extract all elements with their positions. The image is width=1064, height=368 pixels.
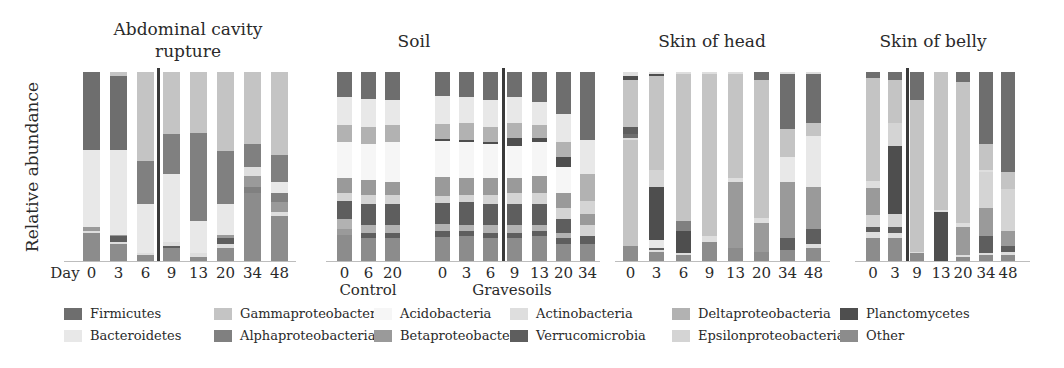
bar-day-13 xyxy=(728,72,743,261)
bar-segment-deltaproteobacteria xyxy=(361,127,376,144)
legend-item-betaproteobacteria: Betaproteobacteria xyxy=(374,328,528,343)
bar-segment-verrucomicrobia xyxy=(385,204,400,225)
bar-segment-betaproteobacteria xyxy=(337,178,352,193)
bar-segment-betaproteobacteria xyxy=(244,176,261,187)
bar-day-3 xyxy=(888,72,902,261)
bar-segment-firmicutes xyxy=(1001,72,1015,172)
bar-segment-verrucomicrobia xyxy=(507,204,522,225)
bar-segment-other xyxy=(580,244,595,261)
legend-swatch-icon xyxy=(510,308,528,320)
bar-segment-verrucomicrobia xyxy=(435,203,450,224)
bar-segment-deltaproteobacteria xyxy=(337,219,352,228)
legend-item-planctomycetes: Planctomycetes xyxy=(840,306,970,321)
bar-segment-bacteroidetes xyxy=(271,182,288,193)
bar-segment-verrucomicrobia xyxy=(532,204,547,225)
bar-segment-firmicutes xyxy=(110,76,127,150)
bar-segment-other xyxy=(163,248,180,261)
event-separator-line xyxy=(502,68,505,261)
bar-segment-deltaproteobacteria xyxy=(483,225,498,233)
x-axis-baseline xyxy=(855,261,1030,262)
bar-segment-gammaproteobacteria xyxy=(623,80,638,127)
legend-item-other: Other xyxy=(840,328,904,343)
bar-day-6 xyxy=(137,72,154,261)
bar-segment-other xyxy=(910,253,924,261)
legend-swatch-icon xyxy=(374,330,392,342)
bar-segment-epsilonproteobacteria xyxy=(866,215,880,226)
bar-segment-firmicutes xyxy=(806,74,821,123)
bar-segment-bacteroidetes xyxy=(83,150,100,227)
x-axis-day-label: Day xyxy=(48,264,82,282)
bar-segment-acidobacteria xyxy=(337,142,352,178)
bar-segment-firmicutes xyxy=(385,72,400,100)
bar-segment-epsilonproteobacteria xyxy=(435,196,450,203)
legend-swatch-icon xyxy=(374,308,392,320)
bar-day-20 xyxy=(217,72,234,261)
bar-segment-firmicutes xyxy=(754,72,769,80)
bar-day-20 xyxy=(754,72,769,261)
panel-title-abdominal: Abdominal cavity rupture xyxy=(93,18,283,62)
bar-segment-bacteroidetes xyxy=(532,102,547,125)
bar-day-34 xyxy=(580,72,595,261)
bar-segment-betaproteobacteria xyxy=(385,182,400,195)
legend-item-epsilonproteobacteria: Epsilonproteobacteria xyxy=(672,328,845,343)
bar-segment-bacteroidetes xyxy=(385,100,400,125)
bar-segment-acidobacteria xyxy=(532,142,547,176)
bar-segment-alphaproteobacteria xyxy=(217,151,234,204)
bar-segment-bacteroidetes xyxy=(580,140,595,174)
bar-segment-gammaproteobacteria xyxy=(676,74,691,221)
bar-segment-acidobacteria xyxy=(507,146,522,178)
bar-segment-epsilonproteobacteria xyxy=(580,201,595,214)
bar-day-20 xyxy=(556,72,571,261)
bar-segment-other xyxy=(337,235,352,261)
bar-segment-epsilonproteobacteria xyxy=(1001,189,1015,231)
bar-segment-gammaproteobacteria xyxy=(888,80,902,123)
legend-swatch-icon xyxy=(214,308,232,320)
legend-swatch-icon xyxy=(214,330,232,342)
legend: FirmicutesBacteroidetesGammaproteobacter… xyxy=(64,306,1064,356)
bar-segment-other xyxy=(623,246,638,261)
legend-label: Bacteroidetes xyxy=(90,328,181,343)
bar-segment-deltaproteobacteria xyxy=(532,125,547,138)
x-axis-baseline xyxy=(64,261,296,262)
bar-segment-betaproteobacteria xyxy=(1001,231,1015,246)
bar-segment-gammaproteobacteria xyxy=(728,74,743,178)
legend-label: Planctomycetes xyxy=(866,306,970,321)
bar-segment-epsilonproteobacteria xyxy=(649,170,664,187)
bar-segment-gammaproteobacteria xyxy=(934,72,948,210)
x-axis-baseline xyxy=(326,261,600,262)
event-separator-line xyxy=(157,68,160,261)
bar-segment-planctomycetes xyxy=(649,187,664,240)
bar-day-13 xyxy=(532,72,547,261)
bar-segment-gammaproteobacteria xyxy=(979,144,993,170)
soil-gravesoils-label: Gravesoils xyxy=(472,281,552,299)
bar-segment-bacteroidetes xyxy=(190,221,207,253)
bar-segment-deltaproteobacteria xyxy=(385,225,400,233)
bar-segment-other xyxy=(483,238,498,261)
bar-segment-bacteroidetes xyxy=(507,97,522,123)
bar-segment-other xyxy=(1001,255,1015,261)
bar-segment-betaproteobacteria xyxy=(754,223,769,251)
bar-day-0 xyxy=(337,72,352,261)
panel-title-soil: Soil xyxy=(384,30,444,52)
bar-segment-other xyxy=(244,193,261,261)
bar-segment-betaproteobacteria xyxy=(271,202,288,211)
bar-segment-firmicutes xyxy=(780,74,795,129)
bar-segment-planctomycetes xyxy=(888,146,902,214)
legend-item-gammaproteobacteria: Gammaproteobacteria xyxy=(214,306,388,321)
bar-segment-other xyxy=(459,236,474,261)
bar-day-6 xyxy=(361,72,376,261)
bar-segment-other xyxy=(532,236,547,261)
bar-segment-alphaproteobacteria xyxy=(244,144,261,167)
bar-segment-verrucomicrobia xyxy=(979,236,993,253)
bar-segment-firmicutes xyxy=(532,72,547,102)
legend-label: Verrucomicrobia xyxy=(536,328,646,343)
panel-title-head: Skin of head xyxy=(657,30,767,52)
bar-segment-planctomycetes xyxy=(676,231,691,254)
bar-day-9 xyxy=(163,72,180,261)
bar-segment-alphaproteobacteria xyxy=(137,161,154,204)
bar-segment-deltaproteobacteria xyxy=(435,124,450,139)
panel-title-belly: Skin of belly xyxy=(878,30,988,52)
bar-segment-other xyxy=(361,238,376,261)
bar-segment-other xyxy=(979,255,993,261)
legend-item-actinobacteria: Actinobacteria xyxy=(510,306,633,321)
